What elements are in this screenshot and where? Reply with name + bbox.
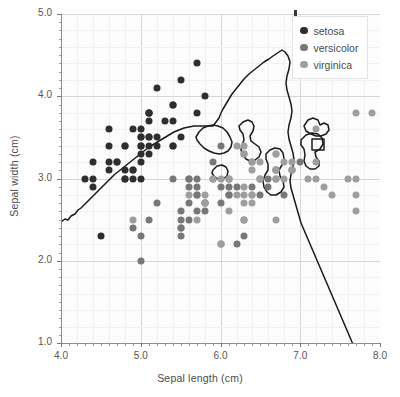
data-point-versicolor: [225, 192, 232, 199]
legend-item-virginica[interactable]: virginica: [300, 56, 358, 73]
data-point-setosa: [177, 134, 184, 141]
y-tick-minor: [59, 269, 62, 270]
data-point-virginica: [353, 192, 360, 199]
data-point-setosa: [137, 175, 144, 182]
data-point-versicolor: [177, 224, 184, 231]
y-tick-minor: [59, 170, 62, 171]
y-tick-minor: [59, 72, 62, 73]
data-point-versicolor: [257, 192, 264, 199]
data-point-setosa: [113, 159, 120, 166]
data-point-setosa: [121, 167, 128, 174]
y-tick-minor: [59, 244, 62, 245]
data-point-virginica: [233, 192, 240, 199]
data-point-virginica: [353, 109, 360, 116]
data-point-setosa: [169, 142, 176, 149]
x-axis-label: Sepal length (cm): [0, 372, 400, 384]
y-tick-minor: [59, 203, 62, 204]
data-point-virginica: [233, 142, 240, 149]
y-tick-minor: [59, 220, 62, 221]
y-tick-minor: [59, 228, 62, 229]
x-tick-label: 7.0: [293, 350, 307, 361]
data-point-virginica: [289, 167, 296, 174]
x-tick-minor: [260, 343, 261, 346]
y-tick-major: [57, 179, 61, 180]
data-point-virginica: [241, 216, 248, 223]
y-axis-label: Sepal width (cm): [8, 116, 20, 236]
data-point-setosa: [145, 109, 152, 116]
y-tick-minor: [59, 310, 62, 311]
y-tick-minor: [59, 302, 62, 303]
y-tick-minor: [59, 113, 62, 114]
x-tick-label: 5.0: [134, 350, 148, 361]
legend-marker-icon: [300, 44, 308, 52]
y-tick-minor: [59, 285, 62, 286]
data-point-setosa: [137, 150, 144, 157]
y-tick-minor: [59, 88, 62, 89]
data-point-versicolor: [297, 159, 304, 166]
data-point-setosa: [129, 167, 136, 174]
data-point-versicolor: [217, 142, 224, 149]
data-point-setosa: [201, 93, 208, 100]
x-tick-minor: [332, 343, 333, 346]
legend-label: virginica: [314, 59, 353, 71]
legend-item-setosa[interactable]: setosa: [300, 22, 358, 39]
data-point-setosa: [145, 117, 152, 124]
data-point-virginica: [129, 216, 136, 223]
legend-marker-icon: [300, 61, 308, 69]
x-tick-minor: [292, 343, 293, 346]
data-point-setosa: [193, 109, 200, 116]
data-point-setosa: [97, 233, 104, 240]
y-tick-minor: [59, 154, 62, 155]
y-tick-minor: [59, 211, 62, 212]
data-point-virginica: [289, 159, 296, 166]
data-point-virginica: [273, 216, 280, 223]
x-tick-minor: [340, 343, 341, 346]
x-tick-major: [221, 343, 222, 347]
x-tick-minor: [189, 343, 190, 346]
x-tick-minor: [149, 343, 150, 346]
x-tick-label: 6.0: [214, 350, 228, 361]
x-tick-minor: [316, 343, 317, 346]
data-point-virginica: [313, 175, 320, 182]
data-point-virginica: [353, 175, 360, 182]
data-point-versicolor: [265, 175, 272, 182]
data-point-versicolor: [241, 233, 248, 240]
x-tick-minor: [236, 343, 237, 346]
data-point-setosa: [145, 150, 152, 157]
data-point-virginica: [353, 208, 360, 215]
data-point-setosa: [89, 175, 96, 182]
y-tick-major: [57, 96, 61, 97]
data-point-virginica: [313, 159, 320, 166]
data-point-virginica: [241, 200, 248, 207]
y-tick-major: [57, 14, 61, 15]
data-point-virginica: [241, 183, 248, 190]
x-tick-major: [61, 343, 62, 347]
x-tick-minor: [85, 343, 86, 346]
y-tick-minor: [59, 47, 62, 48]
data-point-setosa: [121, 142, 128, 149]
data-point-versicolor: [185, 216, 192, 223]
x-tick-minor: [125, 343, 126, 346]
x-tick-minor: [348, 343, 349, 346]
data-point-versicolor: [201, 208, 208, 215]
x-tick-minor: [364, 343, 365, 346]
y-tick-minor: [59, 187, 62, 188]
y-tick-minor: [59, 55, 62, 56]
data-point-virginica: [281, 159, 288, 166]
x-tick-minor: [252, 343, 253, 346]
data-point-setosa: [105, 159, 112, 166]
data-point-versicolor: [193, 183, 200, 190]
data-point-virginica: [273, 150, 280, 157]
y-tick-minor: [59, 162, 62, 163]
data-point-setosa: [137, 142, 144, 149]
x-tick-minor: [93, 343, 94, 346]
data-point-setosa: [105, 167, 112, 174]
legend-item-versicolor[interactable]: versicolor: [300, 39, 358, 56]
data-point-versicolor: [209, 159, 216, 166]
data-point-virginica: [369, 109, 376, 116]
data-point-setosa: [177, 76, 184, 83]
legend-label: versicolor: [314, 42, 359, 54]
data-point-versicolor: [233, 183, 240, 190]
data-point-virginica: [249, 200, 256, 207]
x-tick-minor: [181, 343, 182, 346]
